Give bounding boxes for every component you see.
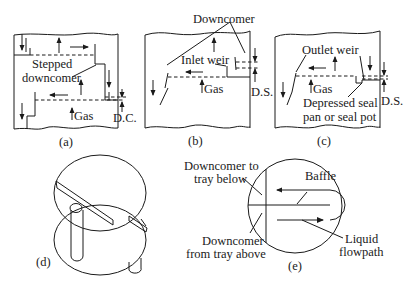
panel-d-isometric-trays: (d) (36, 155, 147, 275)
caption-d: (d) (36, 255, 51, 269)
stepped-downcomer-wall (95, 44, 118, 100)
label-gas-b: Gas (204, 82, 224, 96)
lower-stepped-downcomer (27, 92, 35, 129)
panel-a-stepped-downcomer: Stepped downcomer Gas D.C. (a) (14, 33, 137, 149)
label-downcomer-b: Downcomer (193, 12, 256, 26)
label-outlet-weir: Outlet weir (302, 43, 359, 57)
label-ds-c: D.S. (381, 94, 403, 108)
label-dc-from-above-2: from tray above (186, 247, 266, 261)
caption-e: (e) (288, 259, 302, 273)
label-flowpath: flowpath (339, 245, 384, 259)
label-stepped: Stepped (32, 57, 73, 71)
label-gas-c: Gas (313, 82, 333, 96)
panel-b-inlet-weir: Downcomer Inlet weir Gas D.S. (b) (145, 12, 273, 148)
label-baffle: Baffle (305, 169, 336, 183)
label-liquid: Liquid (345, 232, 379, 246)
upper-tray (54, 155, 146, 231)
panel-c-seal-pan: Outlet weir Gas Depressed seal pan or se… (275, 31, 403, 148)
label-inlet-weir: Inlet weir (181, 53, 230, 67)
downcomer-leader-right (230, 22, 245, 53)
label-dc-to-below-1: Downcomer to (184, 159, 259, 173)
lower-tray (54, 205, 146, 275)
label-gas-a: Gas (74, 109, 94, 123)
upper-downcomer-plate (56, 181, 113, 225)
panel-e-baffle-tray-plan: Downcomer to tray below Baffle Downcomer… (184, 159, 384, 273)
liquid-flowpath-turn (330, 190, 345, 220)
tray-downcomer-diagram: Stepped downcomer Gas D.C. (a) Down (0, 0, 413, 284)
label-seal-2: pan or seal pot (303, 110, 377, 124)
label-seal-1: Depressed seal (303, 96, 378, 110)
caption-c: (c) (317, 134, 331, 148)
column-top-break (14, 33, 118, 35)
caption-a: (a) (59, 135, 73, 149)
label-dc-from-above-1: Downcomer (202, 234, 265, 248)
outlet-weir-leader (296, 55, 306, 72)
label-downcomer: downcomer (22, 71, 82, 85)
label-ds-b: D.S. (251, 85, 273, 99)
label-dc-to-below-2: tray below (194, 172, 247, 186)
caption-b: (b) (188, 134, 203, 148)
column-bottom-break (14, 126, 118, 129)
seal-pan-leader (348, 83, 362, 97)
label-dc-dim: D.C. (113, 111, 137, 125)
